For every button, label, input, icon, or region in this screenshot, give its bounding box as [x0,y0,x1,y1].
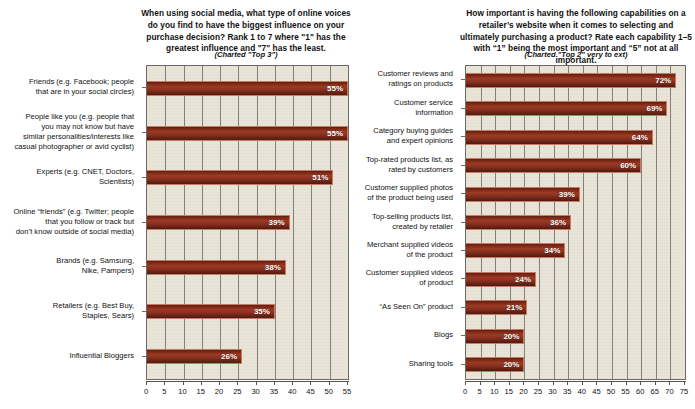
chart-title-left: When using social media, what type of on… [140,8,352,55]
x-tick-label: 45 [306,387,314,396]
bar: 38% [147,260,286,275]
bar-value-label: 72% [655,76,675,85]
x-tick-label: 55 [343,387,351,396]
x-tick [237,381,238,385]
bar-row: 34% [466,243,565,258]
bar-row: 26% [147,349,242,364]
bar-row: 55% [147,81,348,96]
bar-series-left: 55%55%51%39%38%35%26% [147,66,348,379]
chart-panel-right: How important is having the following ca… [356,0,695,409]
bar: 39% [466,187,580,202]
bar-value-label: 20% [503,360,523,369]
x-tick [669,381,670,385]
x-tick [553,381,554,385]
x-tick-label: 70 [665,387,673,396]
bar: 26% [147,349,242,364]
bar-row: 64% [466,130,653,145]
x-tick [538,381,539,385]
bar: 55% [147,81,348,96]
x-tick [626,381,627,385]
bar: 64% [466,130,653,145]
x-tick-label: 25 [233,387,241,396]
x-tick-label: 20 [215,387,223,396]
x-tick [465,381,466,385]
bar-value-label: 36% [550,218,570,227]
x-tick [183,381,184,385]
x-tick [480,381,481,385]
x-axis-left: 0510152025303540455055 [146,381,349,407]
bar-value-label: 60% [620,161,640,170]
x-tick [611,381,612,385]
x-tick [596,381,597,385]
x-tick-label: 65 [651,387,659,396]
x-tick [219,381,220,385]
bar-row: 69% [466,101,667,116]
bar-value-label: 21% [506,303,526,312]
chart-subtitle-right: (Charted "Top 2" very to ext) [460,50,692,59]
x-tick-label: 30 [251,387,259,396]
chart-subtitle-left: (Charted "Top 3") [140,50,352,59]
bar-value-label: 55% [327,129,347,138]
bar-row: 20% [466,357,524,372]
bar: 20% [466,357,524,372]
bar-value-label: 64% [632,133,652,142]
x-tick-label: 50 [607,387,615,396]
bar-row: 39% [466,187,580,202]
bar-row: 72% [466,73,676,88]
x-tick [347,381,348,385]
chart-page: When using social media, what type of on… [0,0,695,409]
x-tick-label: 40 [578,387,586,396]
bar-row: 51% [147,170,333,185]
x-tick-label: 75 [680,387,688,396]
bar-row: 24% [466,272,536,287]
category-label: Customer service information [355,98,453,118]
bar-value-label: 38% [265,263,285,272]
bar: 72% [466,73,676,88]
bar: 69% [466,101,667,116]
bar-value-label: 34% [544,246,564,255]
x-tick [292,381,293,385]
x-tick-label: 15 [197,387,205,396]
category-label: Blogs [355,330,453,340]
bar-value-label: 35% [254,307,274,316]
plot-area-right: 72%69%64%60%39%36%34%24%21%20%20% [465,65,686,380]
x-axis-right: 051015202530354045505560657075 [465,381,686,407]
x-tick [256,381,257,385]
category-label: Category buying guides and expert opinio… [355,126,453,146]
x-tick-label: 10 [178,387,186,396]
bar-row: 55% [147,126,348,141]
category-label: “As Seen On” product [355,302,453,312]
x-tick [274,381,275,385]
category-label: Customer supplied videos of product [355,268,453,288]
x-tick-label: 30 [548,387,556,396]
x-tick [582,381,583,385]
x-tick-label: 35 [563,387,571,396]
bar-value-label: 69% [646,104,666,113]
category-label: Customer reviews and ratings on products [355,69,453,89]
bar-series-right: 72%69%64%60%39%36%34%24%21%20%20% [466,66,685,379]
x-tick [640,381,641,385]
bar-row: 21% [466,300,527,315]
bar: 24% [466,272,536,287]
bar: 36% [466,215,571,230]
bar: 20% [466,329,524,344]
x-tick-label: 15 [505,387,513,396]
category-label: Top-selling products list, created by re… [355,212,453,232]
x-tick [567,381,568,385]
x-tick [684,381,685,385]
bar: 35% [147,304,275,319]
bar-row: 38% [147,260,286,275]
category-label: Top-rated products list, as rated by cus… [355,155,453,175]
bar: 55% [147,126,348,141]
x-tick [164,381,165,385]
bar-row: 35% [147,304,275,319]
category-labels-right: Customer reviews and ratings on products… [356,65,459,380]
category-label: Friends (e.g. Facebook; people that are … [0,77,134,97]
bar: 21% [466,300,527,315]
x-tick-label: 0 [463,387,467,396]
bar: 34% [466,243,565,258]
category-label: Retailers (e.g. Best Buy, Staples, Sears… [0,301,134,321]
x-axis-baseline [465,381,686,382]
x-tick-label: 10 [490,387,498,396]
category-label: Experts (e.g. CNET, Doctors, Scientists) [0,167,134,187]
